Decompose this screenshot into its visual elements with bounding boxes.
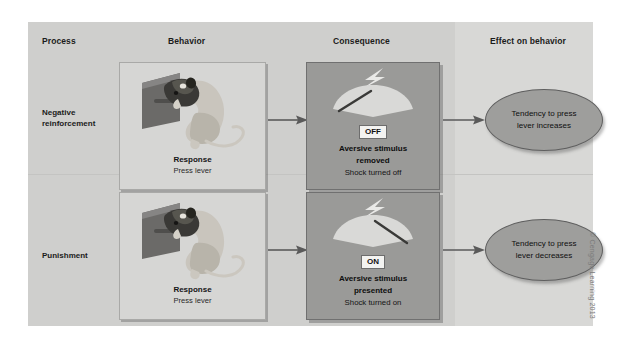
behavior-caption-row-1: Response Press lever — [120, 154, 265, 176]
column-header-consequence: Consequence — [333, 36, 390, 46]
shock-meter-off-icon — [325, 67, 421, 125]
effect-text-line-1-row-2: Tendency to press — [494, 238, 594, 250]
consequence-title-line-1-row-2: Aversive stimulus — [307, 273, 439, 285]
consequence-caption-row-1: Aversive stimulus removed Shock turned o… — [307, 143, 439, 179]
figure-container: Process Behavior Consequence Effect on b… — [0, 0, 627, 349]
state-chip-row-1: OFF — [359, 125, 387, 139]
behavior-box-row-1: Response Press lever — [119, 62, 266, 190]
arrow-behavior-to-consequence-row-1 — [268, 114, 308, 126]
behavior-title-row-1: Response — [120, 154, 265, 165]
rat-lever-press-icon — [134, 69, 254, 155]
behavior-subtitle-row-2: Press lever — [120, 295, 265, 306]
effect-text-row-1: Tendency to press lever increases — [494, 108, 594, 132]
effect-text-line-1-row-1: Tendency to press — [494, 108, 594, 120]
consequence-caption-row-2: Aversive stimulus presented Shock turned… — [307, 273, 439, 309]
rat-lever-press-icon — [134, 199, 254, 285]
consequence-title-line-2-row-2: presented — [307, 285, 439, 297]
column-header-behavior: Behavior — [168, 36, 205, 46]
behavior-box-row-2: Response Press lever — [119, 192, 266, 320]
consequence-title-line-2-row-1: removed — [307, 155, 439, 167]
effect-text-row-2: Tendency to press lever decreases — [494, 238, 594, 262]
effect-text-line-2-row-1: lever increases — [494, 120, 594, 132]
consequence-subtitle-row-1: Shock turned off — [307, 166, 439, 179]
arrow-behavior-to-consequence-row-2 — [268, 244, 308, 256]
behavior-caption-row-2: Response Press lever — [120, 284, 265, 306]
consequence-box-row-1: OFF Aversive stimulus removed Shock turn… — [306, 62, 440, 190]
arrow-consequence-to-effect-row-2 — [443, 244, 485, 256]
consequence-subtitle-row-2: Shock turned on — [307, 296, 439, 309]
behavior-title-row-2: Response — [120, 284, 265, 295]
copyright-credit: © Cengage Learning 2013 — [589, 232, 596, 319]
consequence-title-line-1-row-1: Aversive stimulus — [307, 143, 439, 155]
effect-text-line-2-row-2: lever decreases — [494, 250, 594, 262]
arrow-consequence-to-effect-row-1 — [443, 114, 485, 126]
effect-oval-row-1: Tendency to press lever increases — [485, 89, 603, 151]
column-header-effect: Effect on behavior — [490, 36, 566, 46]
effect-oval-row-2: Tendency to press lever decreases — [485, 219, 603, 281]
column-header-process: Process — [42, 36, 76, 46]
shock-meter-on-icon — [325, 197, 421, 255]
behavior-subtitle-row-1: Press lever — [120, 165, 265, 176]
consequence-box-row-2: ON Aversive stimulus presented Shock tur… — [306, 192, 440, 320]
state-chip-row-2: ON — [361, 255, 385, 269]
